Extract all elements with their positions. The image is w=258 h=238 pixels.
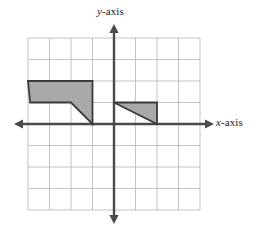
- shapes: [28, 81, 157, 124]
- x-axis-arrowhead-right: [205, 119, 214, 128]
- axes: [14, 24, 214, 224]
- x-axis-label: x-axis: [216, 116, 243, 128]
- y-axis-label: y-axis: [97, 5, 124, 17]
- y-axis-arrowhead-down: [109, 215, 118, 224]
- left-figure: [28, 81, 93, 124]
- y-axis-arrowhead-up: [109, 24, 118, 33]
- x-axis-arrowhead-left: [14, 119, 23, 128]
- coordinate-plane-figure: y-axis x-axis: [0, 0, 258, 238]
- x-axis-label-suffix: -axis: [221, 116, 243, 128]
- y-axis-label-suffix: -axis: [102, 5, 124, 17]
